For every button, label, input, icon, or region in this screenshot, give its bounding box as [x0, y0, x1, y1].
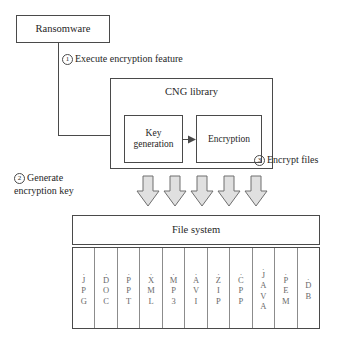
step-2-number: 2: [14, 173, 25, 184]
node-key-generation-label: Key generation: [133, 128, 173, 149]
file-extension-char: M: [282, 296, 290, 306]
file-extension-char: A: [260, 301, 266, 311]
file-extension-char: E: [283, 285, 288, 295]
file-extension-column: .PPT: [118, 248, 140, 328]
step-3-text: Encrypt files: [267, 154, 318, 165]
step-2-text-line1: Generate: [27, 172, 63, 183]
file-extension-char: P: [216, 296, 221, 306]
step-1-label: 1Execute encryption feature: [62, 53, 183, 66]
file-extension-char: O: [103, 285, 109, 295]
step-1-text: Execute encryption feature: [75, 53, 183, 64]
file-extension-column: .JAVA: [253, 248, 275, 328]
down-block-arrow-icon: [190, 175, 214, 207]
file-extension-column: .DB: [298, 248, 319, 328]
step-3-number: 3: [254, 155, 265, 166]
file-extension-strip: .JPG.DOC.PPT.XML.MP3.AVI.ZIP.CPP.JAVA.PE…: [72, 247, 320, 329]
file-extension-char: C: [103, 296, 109, 306]
node-encryption: Encryption: [196, 115, 262, 163]
file-extension-char: P: [126, 285, 131, 295]
down-block-arrow-icon: [136, 175, 160, 207]
connector-ransomware-right: [58, 135, 118, 136]
diagram-canvas: Ransomware 1Execute encryption feature C…: [0, 0, 338, 337]
file-extension-char: J: [82, 275, 85, 285]
file-extension-char: T: [126, 296, 131, 306]
file-extension-char: I: [217, 285, 220, 295]
file-extension-char: I: [195, 296, 198, 306]
file-extension-char: P: [126, 275, 131, 285]
file-extension-char: A: [193, 275, 199, 285]
file-extension-char: J: [262, 270, 265, 280]
file-extension-char: L: [148, 296, 153, 306]
step-3-label: 3Encrypt files: [254, 154, 318, 167]
node-file-system: File system: [72, 215, 320, 245]
node-key-generation: Key generation: [124, 115, 183, 163]
file-extension-char: P: [239, 296, 244, 306]
step-1-number: 1: [62, 54, 73, 65]
step-2-text-line2: encryption key: [14, 185, 74, 196]
encrypt-arrows-group: [136, 175, 268, 207]
file-extension-char: P: [239, 285, 244, 295]
node-cng-library-label: CNG library: [111, 86, 272, 98]
file-extension-column: .DOC: [95, 248, 117, 328]
step-2-label: 2Generate encryption key: [14, 172, 74, 197]
arrowhead-to-encryption-icon: [188, 134, 198, 145]
file-extension-char: P: [171, 285, 176, 295]
file-extension-char: V: [260, 291, 266, 301]
file-extension-char: C: [238, 275, 244, 285]
file-extension-char: Z: [216, 275, 221, 285]
node-key-generation-label-line2: generation: [133, 139, 173, 149]
file-extension-char: P: [81, 285, 86, 295]
node-file-system-label: File system: [172, 224, 220, 236]
node-encryption-label: Encryption: [208, 134, 250, 145]
file-extension-column: .PEM: [275, 248, 297, 328]
node-ransomware-label: Ransomware: [36, 23, 91, 35]
file-extension-column: .MP3: [163, 248, 185, 328]
file-extension-char: M: [147, 285, 155, 295]
file-extension-column: .JPG: [73, 248, 95, 328]
file-extension-column: .ZIP: [208, 248, 230, 328]
down-block-arrow-icon: [163, 175, 187, 207]
file-extension-char: X: [148, 275, 154, 285]
file-extension-char: A: [260, 280, 266, 290]
file-extension-char: D: [103, 275, 109, 285]
down-block-arrow-icon: [244, 175, 268, 207]
node-key-generation-label-line1: Key: [146, 128, 162, 138]
file-extension-char: G: [81, 296, 87, 306]
file-extension-char: D: [305, 280, 311, 290]
file-extension-column: .XML: [140, 248, 162, 328]
file-extension-char: B: [305, 291, 311, 301]
file-extension-char: 3: [171, 296, 175, 306]
file-extension-column: .AVI: [185, 248, 207, 328]
connector-ransomware-down: [58, 43, 59, 135]
down-block-arrow-icon: [217, 175, 241, 207]
node-ransomware: Ransomware: [16, 15, 110, 43]
file-extension-char: P: [283, 275, 288, 285]
file-extension-char: M: [170, 275, 178, 285]
file-extension-char: V: [193, 285, 199, 295]
file-extension-column: .CPP: [230, 248, 252, 328]
